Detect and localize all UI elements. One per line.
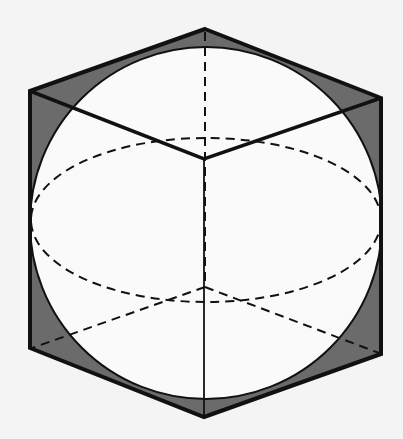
- sphere-in-cube-diagram: [0, 0, 403, 439]
- diagram-canvas: [0, 0, 403, 439]
